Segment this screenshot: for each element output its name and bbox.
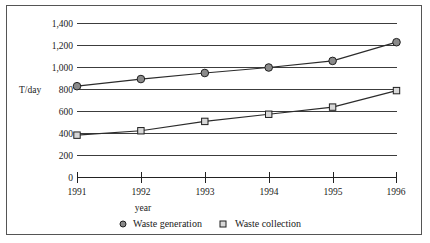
series-markers-collection bbox=[74, 87, 400, 138]
data-point-circle-marker bbox=[73, 82, 81, 90]
series-line-generation bbox=[77, 42, 397, 86]
data-point-circle-marker bbox=[329, 57, 337, 65]
series-waste-generation bbox=[73, 38, 400, 90]
y-tick-label-1000: 1,000 bbox=[52, 63, 74, 73]
x-axis-tick-labels: 1991 1992 1993 1994 1995 1996 bbox=[68, 187, 406, 197]
data-point-square-marker bbox=[266, 111, 272, 117]
chart-legend: Waste generation Waste collection bbox=[120, 218, 301, 229]
x-tick-label-1995: 1995 bbox=[324, 187, 343, 197]
chart-frame: 1,400 1,200 1,000 800 600 400 200 0 T/da… bbox=[6, 5, 422, 235]
x-tick-label-1992: 1992 bbox=[132, 187, 151, 197]
y-axis-tick-labels: 1,400 1,200 1,000 800 600 400 200 0 bbox=[52, 19, 74, 183]
series-line-collection bbox=[77, 91, 397, 136]
series-waste-collection bbox=[74, 87, 400, 138]
legend-square-marker-icon bbox=[220, 221, 226, 227]
data-point-square-marker bbox=[202, 118, 208, 124]
data-point-circle-marker bbox=[201, 69, 209, 77]
y-tick-label-1400: 1,400 bbox=[52, 19, 74, 29]
data-point-circle-marker bbox=[393, 38, 401, 46]
x-tick-label-1994: 1994 bbox=[260, 187, 279, 197]
data-point-square-marker bbox=[329, 104, 335, 110]
data-point-square-marker bbox=[138, 128, 144, 134]
x-tick-label-1991: 1991 bbox=[68, 187, 87, 197]
gridlines bbox=[77, 24, 397, 156]
y-tick-label-800: 800 bbox=[59, 85, 74, 95]
legend-label-generation: Waste generation bbox=[133, 218, 202, 229]
x-tick-label-1996: 1996 bbox=[387, 187, 406, 197]
y-axis-title: T/day bbox=[19, 85, 41, 95]
series-markers-generation bbox=[73, 38, 400, 90]
y-tick-label-400: 400 bbox=[59, 129, 74, 139]
data-point-circle-marker bbox=[265, 64, 273, 72]
y-tick-label-0: 0 bbox=[68, 173, 73, 183]
y-tick-label-200: 200 bbox=[59, 151, 74, 161]
data-point-square-marker bbox=[393, 87, 399, 93]
line-chart-plot: 1,400 1,200 1,000 800 600 400 200 0 T/da… bbox=[7, 6, 421, 234]
y-tick-label-600: 600 bbox=[59, 107, 74, 117]
x-axis-title: year bbox=[135, 203, 152, 213]
legend-circle-marker-icon bbox=[120, 221, 126, 227]
y-tick-label-1200: 1,200 bbox=[52, 41, 74, 51]
data-point-circle-marker bbox=[137, 75, 145, 83]
legend-label-collection: Waste collection bbox=[235, 218, 301, 229]
data-point-square-marker bbox=[74, 132, 80, 138]
x-tick-label-1993: 1993 bbox=[196, 187, 215, 197]
